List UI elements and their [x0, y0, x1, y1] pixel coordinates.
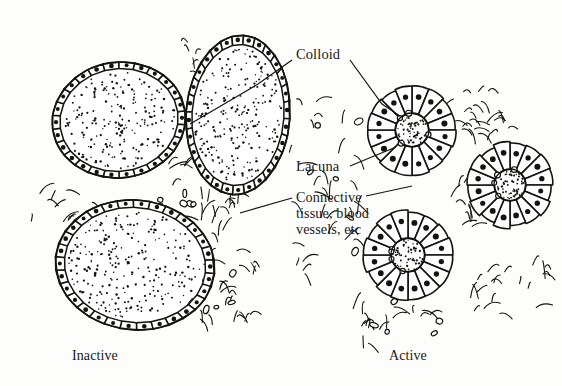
colloid-stipple-dot: [155, 239, 156, 240]
colloid-stipple-dot: [95, 161, 97, 163]
colloid-stipple-dot: [155, 274, 157, 276]
colloid-stipple-dot: [231, 139, 233, 141]
colloid-stipple-dot: [256, 63, 258, 65]
cell-nucleus: [178, 129, 182, 133]
colloid-stipple-dot: [412, 243, 414, 245]
colloid-stipple-dot: [109, 121, 111, 123]
colloid-stipple-dot: [256, 81, 258, 83]
colloid-stipple-dot: [72, 278, 74, 280]
colloid-stipple-dot: [68, 121, 70, 123]
colloid-stipple-dot: [199, 148, 201, 150]
colloid-stipple-dot: [175, 257, 177, 259]
cell-nucleus: [539, 176, 544, 181]
colloid-stipple-dot: [415, 137, 417, 139]
colloid-stipple-dot: [81, 115, 83, 117]
cell-nucleus: [214, 47, 219, 52]
colloid-stipple-dot: [135, 157, 136, 158]
colloid-stipple-dot: [151, 226, 153, 228]
colloid-stipple-dot: [244, 78, 246, 80]
colloid-stipple-dot: [231, 125, 233, 127]
colloid-stipple-dot: [105, 234, 107, 236]
stroma-fiber: [479, 86, 484, 91]
colloid-stipple-dot: [412, 141, 414, 143]
colloid-stipple-dot: [158, 238, 160, 240]
colloid-stipple-dot: [126, 127, 128, 129]
cell-nucleus: [54, 120, 58, 124]
colloid-stipple-dot: [120, 224, 122, 226]
colloid-stipple-dot: [104, 274, 106, 276]
colloid-stipple-dot: [406, 262, 408, 264]
colloid-stipple-dot: [516, 189, 518, 191]
colloid-stipple-dot: [149, 293, 151, 295]
cell-nucleus: [172, 317, 177, 322]
colloid-stipple-dot: [270, 94, 272, 96]
colloid-stipple-dot: [86, 87, 88, 89]
colloid-stipple-dot: [408, 269, 410, 271]
colloid-stipple-dot: [408, 251, 410, 253]
colloid-stipple-dot: [220, 111, 222, 113]
colloid-stipple-dot: [74, 244, 76, 246]
stroma-fiber: [208, 189, 210, 201]
colloid-stipple-dot: [80, 94, 82, 96]
label-lacuna: Lacuna: [296, 158, 339, 174]
colloid-stipple-dot: [139, 301, 141, 303]
colloid-stipple-dot: [153, 259, 155, 261]
colloid-stipple-dot: [416, 243, 418, 245]
cell-nucleus: [403, 95, 408, 100]
cell-nucleus: [236, 188, 240, 192]
cell-nucleus: [198, 164, 202, 168]
colloid-stipple-dot: [143, 258, 145, 260]
colloid-stipple-dot: [115, 217, 117, 219]
colloid-stipple-dot: [188, 240, 190, 242]
colloid-stipple-dot: [258, 78, 260, 80]
stroma-fiber: [201, 310, 203, 322]
colloid-stipple-dot: [397, 254, 399, 256]
colloid-stipple-dot: [276, 135, 278, 137]
colloid-stipple-dot: [108, 236, 110, 238]
colloid-stipple-dot: [73, 110, 74, 111]
colloid-stipple-dot: [73, 283, 74, 284]
colloid-stipple-dot: [398, 135, 400, 137]
colloid-stipple-dot: [153, 115, 155, 117]
colloid-stipple-dot: [86, 112, 88, 114]
colloid-stipple-dot: [117, 104, 119, 106]
colloid-stipple-dot: [106, 86, 108, 88]
colloid-stipple-dot: [513, 174, 515, 176]
blood-vessel-profile: [333, 176, 339, 181]
colloid-stipple-dot: [160, 131, 162, 133]
colloid-stipple-dot: [88, 302, 90, 304]
colloid-stipple-dot: [253, 82, 255, 84]
colloid-stipple-dot: [148, 86, 150, 88]
stroma-fiber: [51, 191, 55, 200]
colloid-stipple-dot: [238, 145, 240, 147]
colloid-stipple-dot: [405, 255, 407, 257]
cell-nucleus: [274, 62, 278, 66]
colloid-stipple-dot: [398, 253, 400, 255]
colloid-stipple-dot: [500, 178, 502, 180]
colloid-stipple-dot: [153, 229, 155, 231]
stroma-fiber: [362, 302, 364, 314]
colloid-stipple-dot: [145, 110, 147, 112]
cell-nucleus: [437, 109, 443, 115]
colloid-stipple-dot: [104, 125, 106, 127]
colloid-stipple-dot: [502, 188, 504, 190]
colloid-stipple-dot: [70, 133, 72, 135]
colloid-stipple-dot: [252, 101, 254, 103]
colloid-stipple-dot: [164, 234, 166, 236]
label-active: Active: [389, 348, 427, 364]
stroma-fiber: [469, 129, 475, 144]
colloid-stipple-dot: [261, 66, 263, 68]
colloid-stipple-dot: [108, 250, 110, 252]
colloid-stipple-dot: [118, 123, 120, 125]
colloid-stipple-dot: [147, 138, 149, 140]
colloid-stipple-dot: [400, 266, 402, 268]
colloid-stipple-dot: [134, 132, 136, 134]
colloid-stipple-dot: [423, 123, 425, 125]
colloid-stipple-dot: [162, 112, 164, 114]
colloid-stipple-dot: [145, 97, 147, 99]
colloid-stipple-dot: [508, 198, 510, 200]
cell-nucleus: [126, 324, 130, 328]
colloid-stipple-dot: [131, 273, 133, 275]
colloid-stipple-dot: [95, 220, 97, 222]
stroma-fiber: [218, 221, 221, 236]
